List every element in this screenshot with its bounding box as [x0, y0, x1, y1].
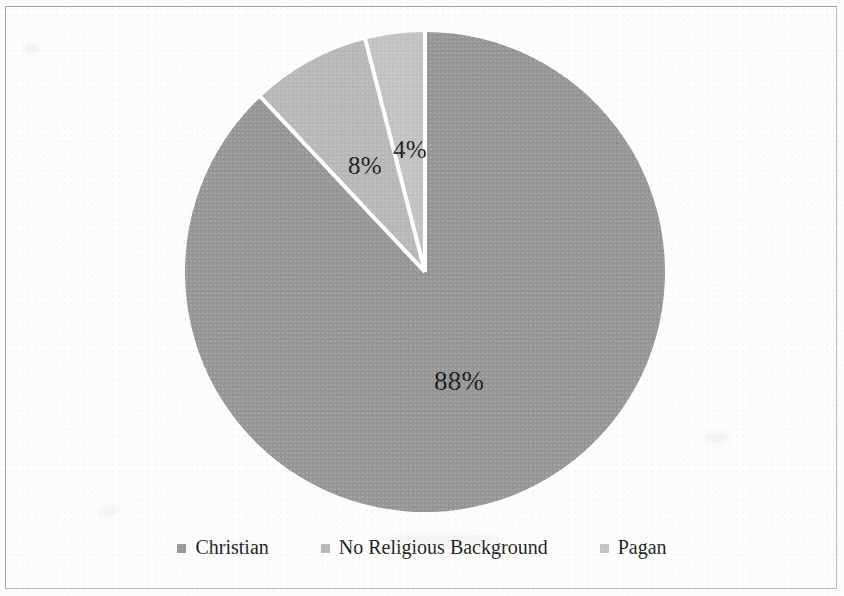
legend-swatch-icon — [177, 544, 186, 553]
slice-label-no-religious-background: 8% — [348, 152, 382, 180]
legend-item[interactable]: Christian — [177, 536, 268, 559]
legend-item-label: Christian — [195, 536, 268, 559]
legend-item-label: No Religious Background — [339, 536, 548, 559]
chart-legend: ChristianNo Religious BackgroundPagan — [0, 536, 844, 559]
pie-chart — [0, 0, 844, 596]
legend-item[interactable]: No Religious Background — [321, 536, 548, 559]
legend-item-label: Pagan — [618, 536, 667, 559]
slice-label-pagan: 4% — [393, 136, 427, 164]
legend-item[interactable]: Pagan — [600, 536, 667, 559]
legend-swatch-icon — [321, 544, 330, 553]
chart-page: 88% 8% 4% ChristianNo Religious Backgrou… — [0, 0, 844, 596]
legend-swatch-icon — [600, 544, 609, 553]
slice-label-christian: 88% — [434, 366, 484, 397]
pie-chart-svg — [0, 0, 844, 596]
